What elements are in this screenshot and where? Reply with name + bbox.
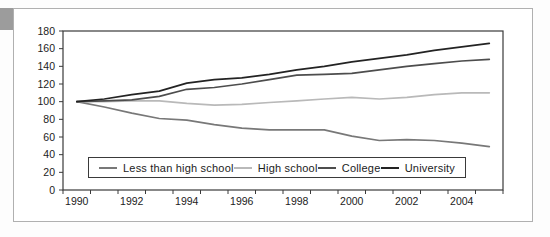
y-axis-tick-label: 140	[37, 60, 55, 72]
y-axis-tick-label: 0	[49, 184, 55, 196]
page-margin-block	[0, 8, 14, 30]
series-line-less-than-high-school	[77, 102, 490, 147]
legend-label-high-school: High school	[258, 162, 318, 174]
legend-line-swatch-university	[381, 167, 399, 169]
x-axis-tick-label: 2000	[340, 195, 364, 207]
legend-line-swatch-less-than-high-school	[99, 167, 117, 169]
x-axis-tick-label: 2002	[395, 195, 419, 207]
y-axis-tick-label: 120	[37, 78, 55, 90]
line-chart: 0204060801001201401601801990199219941996…	[14, 9, 532, 221]
legend-item-less-than-high-school: Less than high school	[99, 162, 234, 174]
x-axis-tick-label: 1998	[285, 195, 309, 207]
legend-label-college: College	[342, 162, 381, 174]
chart-panel: 0204060801001201401601801990199219941996…	[13, 8, 533, 222]
y-axis-tick-label: 100	[37, 95, 55, 107]
x-axis-tick-label: 1990	[65, 195, 89, 207]
legend-label-university: University	[405, 162, 455, 174]
x-axis-tick-label: 1996	[230, 195, 254, 207]
x-axis-tick-label: 1994	[175, 195, 199, 207]
y-axis-tick-label: 60	[43, 131, 55, 143]
chart-legend: Less than high school High school Colleg…	[88, 157, 466, 178]
legend-item-college: College	[318, 162, 381, 174]
y-axis-tick-label: 20	[43, 166, 55, 178]
y-axis-tick-label: 180	[37, 25, 55, 37]
y-axis-tick-label: 40	[43, 148, 55, 160]
legend-line-swatch-high-school	[234, 167, 252, 169]
legend-line-swatch-college	[318, 167, 336, 169]
page: 0204060801001201401601801990199219941996…	[0, 0, 550, 237]
x-axis-tick-label: 2004	[450, 195, 474, 207]
legend-label-less-than-high-school: Less than high school	[123, 162, 234, 174]
y-axis-tick-label: 160	[37, 42, 55, 54]
legend-item-high-school: High school	[234, 162, 318, 174]
y-axis-tick-label: 80	[43, 113, 55, 125]
series-line-university	[77, 43, 490, 101]
x-axis-tick-label: 1992	[120, 195, 144, 207]
legend-item-university: University	[381, 162, 455, 174]
